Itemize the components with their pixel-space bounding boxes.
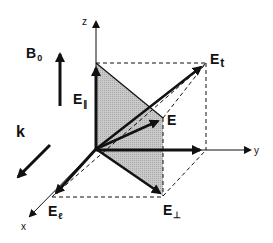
- e-label-main: E: [167, 112, 176, 128]
- e-parallel-label: E∥: [73, 92, 88, 106]
- e-ell-label: Eℓ: [48, 204, 63, 218]
- vector-diagram: [0, 0, 273, 243]
- e-t-label: Et: [210, 52, 224, 66]
- e-perp-label-sub: ⊥: [173, 210, 181, 220]
- e-ell-label-sub: ℓ: [58, 211, 62, 221]
- k-label: k: [16, 124, 25, 140]
- b0-label: B0: [26, 46, 42, 60]
- k-arrow: [18, 145, 50, 177]
- b0-label-main: B: [26, 45, 36, 61]
- e-parallel-label-main: E: [73, 91, 82, 107]
- e-parallel-label-sub: ∥: [83, 99, 88, 109]
- y-axis-label: y: [254, 146, 259, 156]
- x-axis-label: x: [21, 222, 26, 232]
- b0-label-sub: 0: [37, 53, 42, 63]
- e-perp-label: E⊥: [163, 203, 181, 217]
- e-perp-label-main: E: [163, 202, 172, 218]
- e-t-label-main: E: [210, 51, 219, 67]
- e-ell-label-main: E: [48, 203, 57, 219]
- e-label: E: [167, 113, 176, 127]
- z-axis-label: z: [82, 17, 87, 27]
- e-ell-vector: [56, 149, 96, 193]
- e-t-label-sub: t: [220, 56, 224, 70]
